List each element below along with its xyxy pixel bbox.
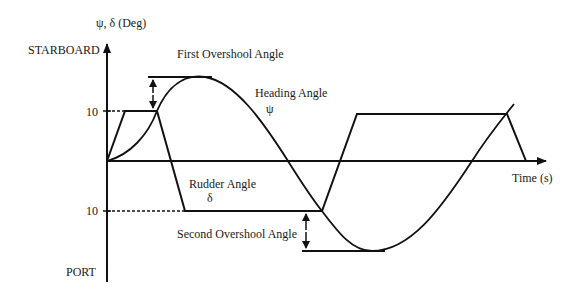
y-axis-label: ψ, δ (Deg)	[96, 17, 146, 29]
heading-symbol: ψ	[266, 103, 274, 115]
first-overshoot-label: First Overshool Angle	[177, 48, 284, 60]
rudder-angle-label: Rudder Angle	[189, 178, 256, 190]
second-overshoot-label: Second Overshool Angle	[177, 228, 297, 240]
rudder-symbol: δ	[207, 192, 213, 204]
starboard-label: STARBOARD	[28, 44, 100, 56]
heading-angle-label: Heading Angle	[255, 87, 327, 99]
tick-label-lower: 10	[86, 205, 98, 217]
tick-label-upper: 10	[86, 106, 98, 118]
heading-angle-curve	[107, 77, 514, 251]
port-label: PORT	[66, 266, 96, 278]
x-axis-label: Time (s)	[512, 172, 553, 184]
